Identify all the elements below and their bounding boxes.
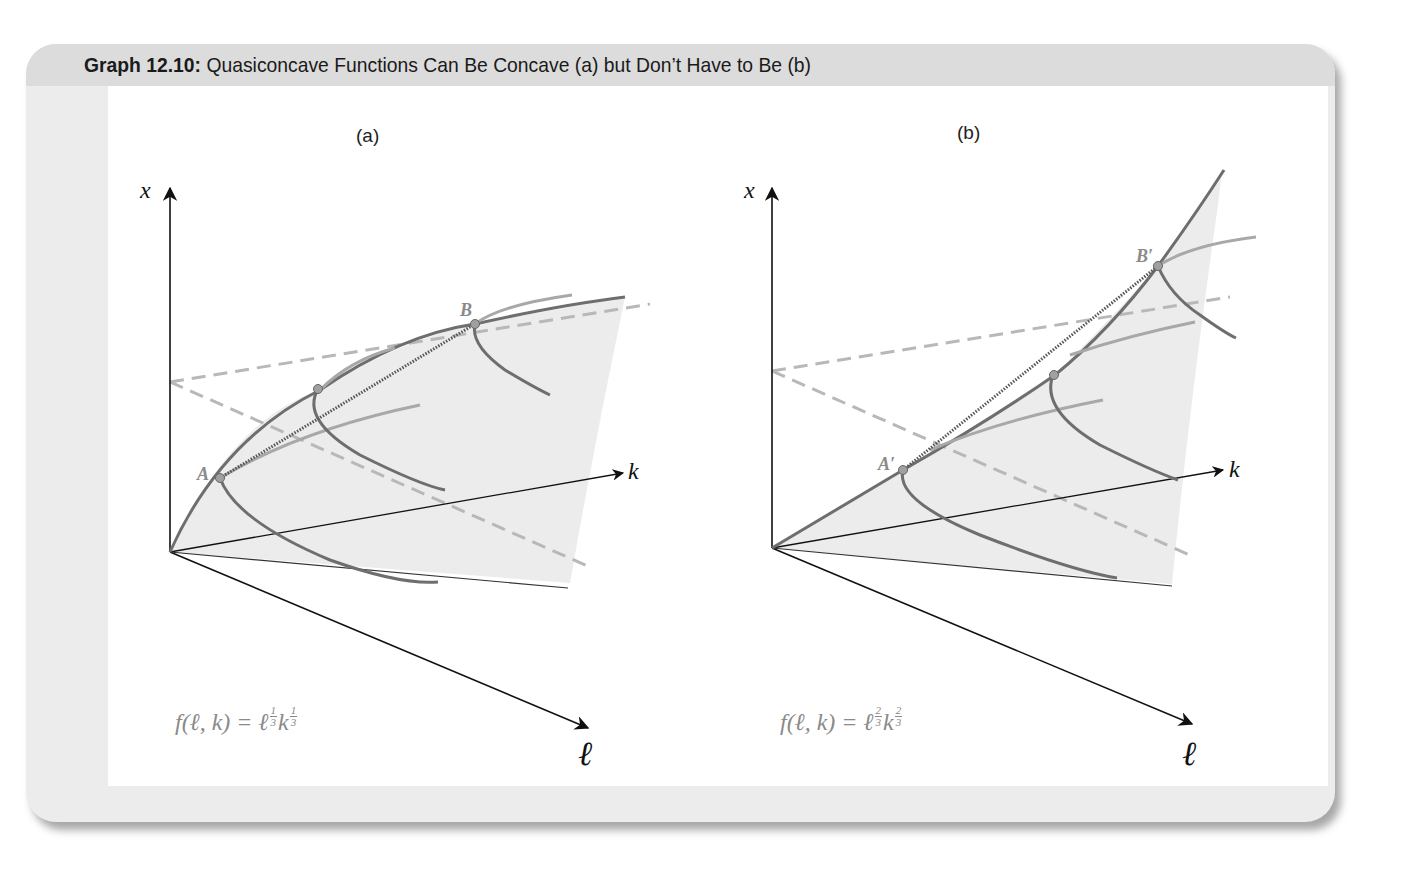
formula-b: f(ℓ, k) = ℓ23k23 (780, 705, 903, 736)
formula-a-k: k (278, 709, 289, 735)
axis-label-x: x (744, 177, 755, 204)
exponent-fraction: 23 (895, 705, 903, 728)
axis-label-l: ℓ (1182, 735, 1196, 773)
exponent-fraction: 13 (290, 705, 298, 728)
formula-a-lhs: f(ℓ, k) = ℓ (175, 709, 269, 735)
point-b-prime (1154, 262, 1163, 271)
point-mid-b (1050, 371, 1059, 380)
point-mid-a (314, 385, 323, 394)
exponent-fraction: 13 (270, 705, 278, 728)
formula-a: f(ℓ, k) = ℓ13k13 (175, 705, 298, 736)
exponent-fraction: 23 (875, 705, 883, 728)
formula-b-k: k (883, 709, 894, 735)
point-label-a-prime: A′ (878, 454, 895, 475)
axis-label-x: x (140, 177, 151, 204)
point-a-prime (899, 466, 908, 475)
axis-label-l: ℓ (578, 735, 592, 773)
point-label-b-prime: B′ (1136, 246, 1153, 267)
formula-b-lhs: f(ℓ, k) = ℓ (780, 709, 874, 735)
point-label-a: A (197, 464, 209, 485)
panel-b-label: (b) (957, 122, 980, 144)
figure-canvas (0, 0, 1415, 872)
axis-label-k: k (628, 458, 639, 485)
panel-a-label: (a) (356, 125, 379, 147)
point-label-b: B (460, 300, 472, 321)
point-a (216, 474, 225, 483)
axis-label-k: k (1229, 456, 1240, 483)
